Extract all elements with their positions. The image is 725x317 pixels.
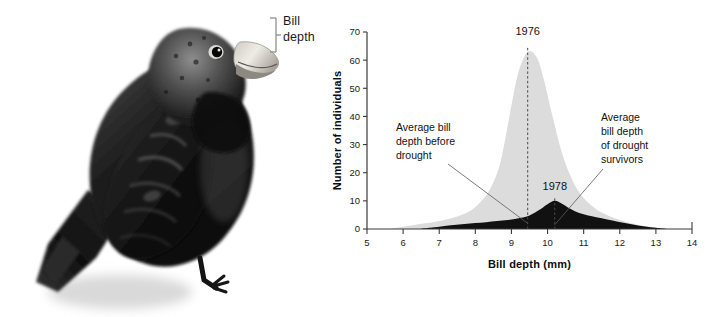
annotation-text-line: depth before (396, 135, 455, 147)
series-label-1976: 1976 (515, 25, 539, 37)
annotation-text-line: drought (396, 149, 432, 161)
y-tick-label: 30 (349, 139, 360, 150)
x-tick-label: 5 (364, 237, 369, 248)
annotation-text-line: of drought (601, 139, 648, 151)
annotation-text-line: survivors (601, 153, 643, 165)
y-tick-label: 70 (349, 26, 360, 37)
x-tick-label: 12 (614, 237, 625, 248)
finch-photograph (0, 0, 330, 317)
bill-depth-bracket-label: Bill depth (283, 13, 315, 45)
x-tick-label: 6 (400, 237, 405, 248)
y-tick-label: 20 (349, 167, 360, 178)
finch-eye (212, 47, 222, 57)
y-tick-label: 50 (349, 83, 360, 94)
series-label-1978: 1978 (543, 180, 567, 192)
finch-foot (214, 276, 228, 292)
y-tick-label: 60 (349, 55, 360, 66)
bill-depth-distribution-chart: 010203040506070567891011121314Bill depth… (330, 0, 725, 317)
y-tick-label: 10 (349, 195, 360, 206)
annotation-text-line: Average (601, 111, 640, 123)
x-tick-label: 7 (437, 237, 442, 248)
bill-depth-label-line1: Bill (283, 13, 315, 29)
bill-depth-bracket (270, 18, 281, 52)
x-tick-label: 9 (509, 237, 514, 248)
y-axis-title: Number of individuals (331, 71, 343, 191)
x-tick-label: 13 (651, 237, 662, 248)
x-tick-label: 10 (542, 237, 553, 248)
y-tick-label: 0 (355, 223, 360, 234)
annotation-text-line: bill depth (601, 125, 643, 137)
x-tick-label: 14 (687, 237, 698, 248)
finch-eye-glint (218, 49, 221, 52)
x-tick-label: 11 (579, 237, 589, 248)
x-tick-label: 8 (473, 237, 478, 248)
finch-photo-panel: Bill depth (0, 0, 330, 317)
chart-canvas: 010203040506070567891011121314Bill depth… (330, 0, 725, 317)
bill-depth-label-line2: depth (283, 29, 315, 45)
annotation-text-line: Average bill (396, 121, 451, 133)
y-tick-label: 40 (349, 111, 360, 122)
darwin-finch-figure: Bill depth 01020304050607056789101112131… (0, 0, 725, 317)
x-axis-title: Bill depth (mm) (488, 258, 571, 270)
